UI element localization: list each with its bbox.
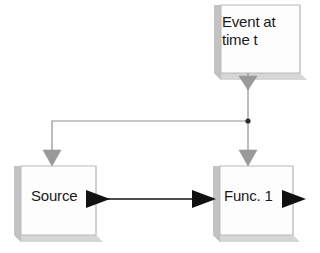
diagram-canvas: Event at time t Source Func. 1 — [0, 0, 320, 253]
event-to-source-line — [52, 121, 248, 152]
source-to-func1-dataflow[interactable] — [86, 190, 216, 208]
func-1-block-left-extrude — [213, 166, 220, 242]
source-block-shadow — [14, 235, 103, 242]
diagram-vector-layer — [0, 0, 320, 253]
event-to-func1-connector[interactable] — [239, 121, 257, 166]
func1-input-port-arrow-icon — [192, 190, 216, 208]
source-block-left-extrude — [14, 166, 21, 242]
func1-output-dataflow[interactable] — [282, 190, 306, 208]
event-block-left-extrude — [214, 5, 221, 80]
func1-output-port-arrow-icon — [282, 190, 306, 208]
event-to-source-arrow-icon — [43, 150, 61, 166]
func-1-block-shadow — [213, 235, 300, 242]
source-output-port-arrow-icon — [86, 190, 110, 208]
source-block-face — [21, 166, 96, 235]
event-to-func1-arrow-icon — [239, 150, 257, 166]
event-output-connector[interactable] — [239, 73, 257, 121]
event-block[interactable] — [214, 5, 307, 80]
event-to-source-connector[interactable] — [43, 121, 248, 166]
event-output-arrow-icon — [239, 76, 257, 90]
event-block-shadow — [214, 73, 307, 80]
event-block-face — [221, 5, 300, 73]
signal-junction-dot — [245, 118, 250, 123]
